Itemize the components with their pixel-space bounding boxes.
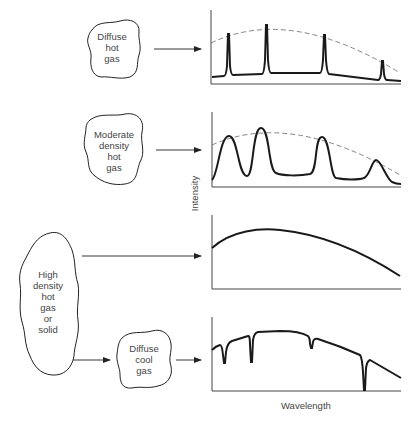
spectrum-panel-absorption bbox=[212, 317, 401, 391]
spectrum-panel-broadened bbox=[212, 112, 401, 187]
spectrum-panel-emission bbox=[211, 10, 401, 84]
blackbody-envelope bbox=[211, 29, 400, 73]
label-high-density-hot-gas-or-solid: High density hot gas or solid bbox=[33, 269, 63, 335]
continuous-spectrum-curve bbox=[212, 229, 400, 276]
x-axis-label: Wavelength bbox=[281, 400, 331, 411]
blackbody-envelope bbox=[212, 133, 400, 175]
label-diffuse-cool-gas: Diffuse cool gas bbox=[129, 343, 158, 376]
spectrum-panel-continuous bbox=[212, 215, 401, 289]
absorption-spectrum-curve bbox=[212, 331, 401, 390]
spectra-diagram bbox=[0, 0, 419, 426]
label-moderate-density-hot-gas: Moderate density hot gas bbox=[94, 129, 134, 173]
y-axis-label: Intensity bbox=[189, 174, 200, 214]
label-diffuse-hot-gas: Diffuse hot gas bbox=[97, 31, 126, 64]
